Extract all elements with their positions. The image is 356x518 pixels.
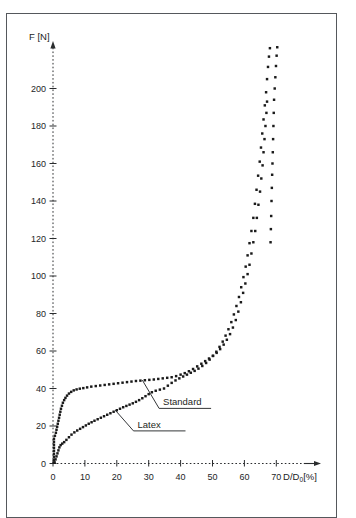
data-point [125, 405, 127, 407]
data-point [248, 242, 250, 244]
data-point [258, 160, 260, 162]
data-point [197, 367, 199, 369]
data-point [112, 411, 114, 413]
data-point [240, 286, 242, 288]
data-point [112, 383, 114, 385]
data-point [58, 414, 60, 416]
data-point [190, 372, 192, 374]
data-point [182, 375, 184, 377]
series-latex [53, 100, 269, 463]
data-point [144, 395, 146, 397]
data-point [65, 439, 67, 441]
data-point [272, 151, 274, 153]
data-point [242, 292, 244, 294]
data-point [235, 319, 237, 321]
data-point [57, 423, 59, 425]
data-point [233, 313, 235, 315]
data-point [261, 164, 263, 166]
y-axis-arrow-icon [50, 41, 55, 49]
y-axis-tick-label: 120 [31, 234, 46, 244]
data-point [163, 387, 165, 389]
data-point [271, 162, 273, 164]
data-point [54, 435, 56, 437]
data-point [264, 125, 266, 127]
data-point [265, 112, 267, 114]
data-point [86, 386, 88, 388]
data-point [53, 450, 55, 452]
data-point [79, 387, 81, 389]
data-point [70, 433, 72, 435]
data-point [260, 177, 262, 179]
data-point [121, 381, 123, 383]
data-point [63, 441, 65, 443]
data-point [174, 379, 176, 381]
data-point [201, 365, 203, 367]
data-point [128, 403, 130, 405]
data-point [59, 411, 61, 413]
data-point [266, 100, 268, 102]
data-point [95, 385, 97, 387]
data-point [53, 453, 55, 455]
y-axis-title: F [N] [29, 31, 50, 42]
data-point [269, 241, 271, 243]
data-point [53, 438, 55, 440]
data-point [55, 455, 57, 457]
data-point [252, 241, 254, 243]
data-point [260, 146, 262, 148]
data-point [135, 380, 137, 382]
data-point [73, 389, 75, 391]
data-point [235, 305, 237, 307]
data-point [70, 391, 72, 393]
data-point [58, 446, 60, 448]
data-point [126, 381, 128, 383]
data-point [262, 151, 264, 153]
data-point [68, 392, 70, 394]
data-point [175, 375, 177, 377]
data-point [103, 415, 105, 417]
data-point [242, 276, 244, 278]
data-point [184, 372, 186, 374]
data-point [109, 412, 111, 414]
data-point [246, 273, 248, 275]
data-point [138, 399, 140, 401]
data-point [212, 355, 214, 357]
data-point [119, 408, 121, 410]
data-point [148, 379, 150, 381]
data-point [62, 402, 64, 404]
data-point [55, 432, 57, 434]
data-point [53, 447, 55, 449]
y-axis-tick-label: 160 [31, 159, 46, 169]
data-point [166, 377, 168, 379]
data-point [170, 376, 172, 378]
data-point [262, 118, 264, 120]
data-point [250, 252, 252, 254]
data-point [144, 379, 146, 381]
data-point [147, 393, 149, 395]
data-point [151, 391, 153, 393]
y-axis-tick-label: 140 [31, 196, 46, 206]
data-point [268, 55, 270, 57]
data-point [196, 365, 198, 367]
data-point [132, 402, 134, 404]
data-point [82, 387, 84, 389]
annotation-label: Latex [138, 419, 161, 430]
data-point [88, 423, 90, 425]
data-point [272, 125, 274, 127]
data-point [170, 382, 172, 384]
data-point [274, 76, 276, 78]
data-point [257, 174, 259, 176]
data-point [271, 187, 273, 189]
data-point [108, 383, 110, 385]
data-point [257, 204, 259, 206]
data-point [218, 346, 220, 348]
data-point [248, 264, 250, 266]
data-point [99, 384, 101, 386]
data-point [230, 321, 232, 323]
data-point [100, 417, 102, 419]
data-point [261, 132, 263, 134]
data-point [276, 46, 278, 48]
data-point [222, 343, 224, 345]
data-point [272, 138, 274, 140]
